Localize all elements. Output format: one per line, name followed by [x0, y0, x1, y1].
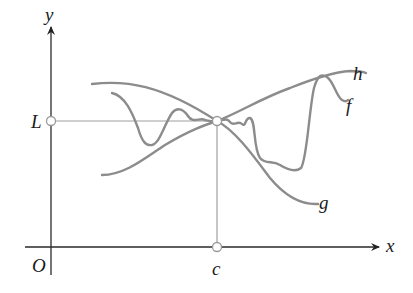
- y-axis-label: y: [45, 5, 53, 24]
- x-axis-label: x: [386, 236, 394, 255]
- squeeze-theorem-diagram: [0, 0, 413, 293]
- limit-point-marker: [47, 117, 56, 126]
- curve-h-label: h: [353, 64, 363, 83]
- curve-f-label: f: [346, 96, 351, 115]
- c-point-marker: [213, 243, 222, 252]
- c-label: c: [212, 259, 220, 278]
- curve-g: [102, 121, 318, 204]
- curve-g-label: g: [319, 193, 329, 212]
- origin-label: O: [32, 256, 46, 275]
- limit-label: L: [31, 112, 42, 131]
- squeeze-point-marker: [213, 117, 222, 126]
